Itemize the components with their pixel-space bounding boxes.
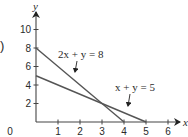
y-tick-8: 8 (25, 43, 31, 54)
y-axis-label: y (32, 0, 38, 12)
x-axis-label: x (182, 116, 188, 128)
origin-label: 0 (7, 126, 13, 137)
x-tick-4: 4 (121, 126, 127, 137)
linear-equations-chart: ) x y 0 1 2 3 4 5 6 2 4 6 8 10 (0, 0, 188, 137)
equation-label-x-plus-y-eq-5: x + y = 5 (115, 81, 155, 93)
part-label-paren: ) (0, 38, 4, 53)
equation-label-2x-plus-y-eq-8: 2x + y = 8 (58, 48, 104, 60)
x-tick-3: 3 (99, 126, 105, 137)
pointer-arrow-icon (128, 94, 130, 106)
pointer-arrow-icon (75, 61, 77, 72)
y-tick-10: 10 (20, 24, 32, 35)
y-tick-labels: 2 4 6 8 10 (20, 24, 32, 109)
x-tick-6: 6 (165, 126, 171, 137)
x-tick-1: 1 (55, 126, 61, 137)
y-tick-2: 2 (25, 98, 31, 109)
x-tick-labels: 0 1 2 3 4 5 6 (7, 126, 171, 137)
y-tick-4: 4 (25, 80, 31, 91)
x-tick-5: 5 (143, 126, 149, 137)
y-tick-6: 6 (25, 61, 31, 72)
x-tick-2: 2 (77, 126, 83, 137)
